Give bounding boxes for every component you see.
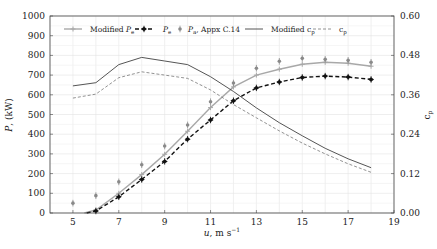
series-modified-c-p	[73, 57, 371, 167]
grid	[50, 16, 394, 213]
y-tick-label: 100	[28, 188, 45, 198]
x-tick-label: 7	[116, 217, 122, 227]
y-tick-label: 0	[39, 208, 45, 218]
y-tick-label: 700	[28, 70, 45, 80]
y2-tick-label: 0.00	[400, 208, 420, 218]
y2-axis-ticks: 0.000.120.240.360.480.60	[391, 11, 420, 218]
y2-tick-label: 0.12	[400, 169, 420, 179]
y-tick-label: 1000	[22, 11, 45, 21]
y2-axis-label: cp	[422, 110, 434, 119]
x-tick-label: 19	[388, 217, 400, 227]
x-tick-label: 15	[297, 217, 309, 227]
x-tick-label: 13	[251, 217, 263, 227]
x-tick-label: 5	[70, 217, 76, 227]
y2-tick-label: 0.48	[400, 50, 420, 60]
x-tick-label: 17	[342, 217, 354, 227]
x-tick-label: 9	[162, 217, 168, 227]
y2-tick-label: 0.36	[400, 90, 420, 100]
power-curve-chart: 5791113151719 01002003004005006007008009…	[0, 0, 437, 249]
y2-tick-label: 0.60	[400, 11, 420, 21]
y-axis-ticks: 01002003004005006007008009001000	[22, 11, 53, 218]
y-tick-label: 400	[28, 129, 45, 139]
legend-label: Modified cp	[271, 25, 315, 36]
series-layer	[71, 55, 374, 214]
x-tick-label: 11	[205, 217, 216, 227]
series-c-p	[73, 72, 371, 173]
y-axis-label: P, (kW)	[4, 98, 14, 133]
x-axis-label: u, m s−1	[204, 226, 240, 238]
y-tick-label: 800	[28, 50, 45, 60]
y-tick-label: 900	[28, 31, 45, 41]
x-axis-ticks: 5791113151719	[70, 210, 400, 227]
y-tick-label: 600	[28, 90, 45, 100]
legend: Modified PePePa, Appx C.14Modified cpcp	[64, 25, 347, 36]
legend-label: Modified Pe	[90, 25, 134, 35]
y-tick-label: 200	[28, 169, 45, 179]
legend-label: cp	[339, 25, 347, 36]
y2-tick-label: 0.24	[400, 129, 420, 139]
legend-label: Pe	[162, 25, 171, 35]
y-tick-label: 300	[28, 149, 45, 159]
legend-label: Pa, Appx C.14	[187, 25, 240, 35]
y-tick-label: 500	[28, 110, 45, 120]
